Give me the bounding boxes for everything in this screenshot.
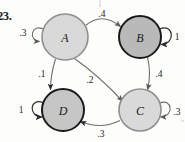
node-d[interactable]: D	[42, 89, 84, 131]
edge-a-to-c	[75, 59, 123, 102]
self-loop-label-b: 1	[175, 32, 180, 42]
edge-c-to-d	[81, 121, 121, 126]
state-transition-graph: A B C D .4 .1 .2 .4 .3 .3 1 .3 1	[0, 0, 185, 142]
edge-a-to-b	[86, 19, 121, 27]
node-b[interactable]: B	[119, 16, 161, 58]
node-d-label: D	[58, 104, 68, 118]
self-loop-label-c: .3	[173, 107, 180, 117]
edge-b-to-c	[148, 57, 150, 90]
node-a[interactable]: A	[42, 14, 88, 60]
edge-label-a-to-b: .4	[98, 9, 105, 19]
node-c[interactable]: C	[119, 89, 161, 131]
edge-label-a-to-c: .2	[86, 75, 93, 85]
self-loop-label-a: .3	[19, 28, 26, 38]
edge-label-a-to-d: .1	[38, 69, 45, 79]
diagram-canvas: 23.	[0, 0, 185, 142]
node-b-label: B	[136, 31, 144, 45]
edge-a-to-d	[51, 59, 56, 90]
edge-label-c-to-d: .3	[97, 129, 104, 139]
self-loop-label-d: 1	[19, 105, 24, 115]
node-c-label: C	[136, 104, 145, 118]
node-a-label: A	[60, 31, 69, 45]
edge-label-b-to-c: .4	[155, 69, 162, 79]
